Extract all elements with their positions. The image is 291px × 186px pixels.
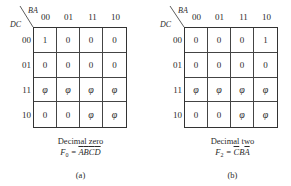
- kmap-cell: 0: [208, 28, 231, 53]
- kmap-cell: 1: [254, 28, 277, 53]
- karnaugh-map-a: BA DC 00 01 11 10 00 01 11 10 1 0 0 0 0 …: [0, 0, 145, 186]
- map-caption: Decimal two F2 = CBA: [160, 136, 291, 161]
- kmap-cell: 0: [57, 28, 80, 53]
- boolean-formula: F2 = CBA: [160, 147, 291, 161]
- kmap-grid: 0 0 0 1 0 0 0 0 φ φ φ φ 0 0 φ φ: [184, 27, 278, 128]
- kmap-cell: 0: [185, 102, 208, 127]
- caption-title: Decimal two: [160, 136, 291, 147]
- column-header: 01: [208, 12, 231, 22]
- subfigure-label: (a): [8, 170, 153, 180]
- kmap-cell: 0: [34, 53, 57, 78]
- row-variable-label: DC: [10, 20, 21, 29]
- column-header: 00: [34, 12, 57, 22]
- boolean-formula: F0 = ABCD: [8, 147, 153, 161]
- kmap-cell-dont-care: φ: [80, 102, 103, 127]
- kmap-cell-dont-care: φ: [231, 78, 254, 103]
- kmap-cell: 0: [57, 102, 80, 127]
- row-header: 10: [17, 110, 31, 120]
- kmap-cell: 0: [57, 53, 80, 78]
- formula-equals: =: [69, 147, 79, 157]
- formula-equals: =: [224, 147, 234, 157]
- kmap-cell: 0: [185, 28, 208, 53]
- kmap-cell: 0: [231, 28, 254, 53]
- kmap-cell: 0: [231, 53, 254, 78]
- kmap-cell: 0: [103, 53, 126, 78]
- formula-term-negated: D: [94, 147, 100, 157]
- kmap-cell: 0: [103, 28, 126, 53]
- kmap-cell-dont-care: φ: [208, 78, 231, 103]
- column-header: 11: [232, 12, 255, 22]
- row-header: 00: [17, 35, 31, 45]
- row-header: 11: [17, 85, 31, 95]
- column-header: 10: [255, 12, 278, 22]
- kmap-cell: 0: [80, 53, 103, 78]
- column-header: 01: [57, 12, 80, 22]
- formula-term-negated: A: [244, 147, 249, 157]
- kmap-cell-dont-care: φ: [185, 78, 208, 103]
- kmap-cell-dont-care: φ: [254, 102, 277, 127]
- kmap-cell: 0: [185, 53, 208, 78]
- column-header: 11: [81, 12, 104, 22]
- row-header: 00: [168, 35, 182, 45]
- row-header: 01: [168, 60, 182, 70]
- kmap-cell-dont-care: φ: [80, 78, 103, 103]
- kmap-cell-dont-care: φ: [57, 78, 80, 103]
- column-header: 10: [104, 12, 127, 22]
- subfigure-label: (b): [160, 170, 291, 180]
- kmap-cell: 0: [208, 102, 231, 127]
- kmap-cell: 0: [80, 28, 103, 53]
- kmap-grid: 1 0 0 0 0 0 0 0 φ φ φ φ 0 0 φ φ: [33, 27, 127, 128]
- column-header: 00: [185, 12, 208, 22]
- caption-title: Decimal zero: [8, 136, 153, 147]
- kmap-cell: 1: [34, 28, 57, 53]
- kmap-cell-dont-care: φ: [103, 78, 126, 103]
- row-header: 11: [168, 85, 182, 95]
- karnaugh-map-b: BA DC 00 01 11 10 00 01 11 10 0 0 0 1 0 …: [146, 0, 291, 186]
- row-header: 10: [168, 110, 182, 120]
- kmap-cell-dont-care: φ: [34, 78, 57, 103]
- kmap-cell: 0: [34, 102, 57, 127]
- map-caption: Decimal zero F0 = ABCD: [8, 136, 153, 161]
- row-header: 01: [17, 60, 31, 70]
- kmap-cell-dont-care: φ: [103, 102, 126, 127]
- kmap-cell-dont-care: φ: [254, 78, 277, 103]
- kmap-cell: 0: [254, 53, 277, 78]
- kmap-cell: 0: [208, 53, 231, 78]
- row-variable-label: DC: [160, 20, 171, 29]
- kmap-cell-dont-care: φ: [231, 102, 254, 127]
